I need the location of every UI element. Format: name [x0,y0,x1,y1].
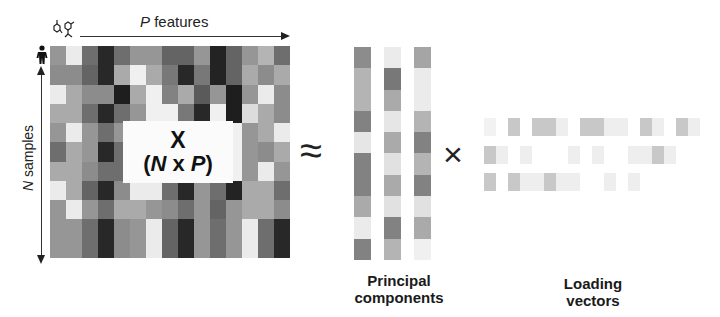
pc-cell [414,47,431,68]
matrix-cell [226,219,242,238]
loading-vector-row [484,118,700,136]
matrix-cell [258,162,274,181]
matrix-cell [98,65,114,84]
lv-label-line1: Loading [543,275,643,292]
matrix-cell [146,181,162,200]
matrix-cell [274,85,290,104]
loading-cell [532,173,544,191]
matrix-cell [274,65,290,84]
matrix-cell [242,46,258,65]
pc-cell [384,90,401,111]
matrix-cell [50,46,66,65]
pc-cell [414,68,431,89]
matrix-cell [82,181,98,200]
matrix-cell [114,200,130,219]
loading-cell [628,173,640,191]
samples-arrow [41,72,42,258]
matrix-cell [66,46,82,65]
matrix-cell [178,65,194,84]
loading-cell [520,118,532,136]
loading-cell [664,173,676,191]
pc-cell [354,90,371,111]
loading-cell [520,173,532,191]
pc-cell [414,196,431,217]
loading-cell [580,118,592,136]
pc-cell [354,239,371,260]
matrix-cell [98,162,114,181]
matrix-cell [146,239,162,258]
loading-cell [604,173,616,191]
matrix-cell [98,181,114,200]
features-arrow [80,36,288,37]
loading-cell [568,118,580,136]
matrix-cell [162,219,178,238]
pc-cell [354,196,371,217]
pc-cell [384,111,401,132]
loading-cell [616,173,628,191]
matrix-cell [258,142,274,161]
matrix-cell [274,219,290,238]
loading-cell [628,146,640,164]
matrix-cell [66,200,82,219]
loading-cell [496,118,508,136]
n-variable: N [20,181,36,191]
pc-cell [414,153,431,174]
matrix-cell [130,239,146,258]
matrix-title: X [170,128,185,152]
matrix-cell [50,142,66,161]
matrix-cell [178,200,194,219]
loading-cell [484,146,496,164]
loading-cell [652,146,664,164]
matrix-cell [274,142,290,161]
loading-vector-row [484,146,700,164]
matrix-cell [226,181,242,200]
matrix-cell [178,46,194,65]
pc-cell [354,153,371,174]
loading-cell [508,118,520,136]
matrix-cell [98,46,114,65]
pc-column [354,47,371,260]
pc-column [384,47,401,260]
loading-cell [580,146,592,164]
loading-cell [652,118,664,136]
matrix-cell [66,181,82,200]
matrix-cell [274,162,290,181]
samples-text: samples [20,125,36,181]
dim-p: P [191,151,206,176]
matrix-cell [50,104,66,123]
loading-cell [580,173,592,191]
matrix-cell [146,46,162,65]
matrix-cell [274,200,290,219]
person-icon [35,45,49,65]
matrix-cell [258,85,274,104]
p-features-label: P features [140,13,208,30]
matrix-cell [146,219,162,238]
matrix-cell [242,219,258,238]
pc-cell [384,196,401,217]
matrix-cell [50,239,66,258]
matrix-cell [178,181,194,200]
loading-cell [556,118,568,136]
matrix-cell [66,104,82,123]
loading-cell [676,173,688,191]
matrix-cell [242,142,258,161]
loading-cell [688,118,700,136]
matrix-cell [82,239,98,258]
matrix-cell [274,104,290,123]
loading-cell [556,146,568,164]
pc-cell [384,217,401,238]
lv-label: Loading vectors [543,275,643,309]
matrix-cell [66,162,82,181]
matrix-cell [130,219,146,238]
loading-cell [616,146,628,164]
pc-cell [384,153,401,174]
matrix-cell [226,65,242,84]
matrix-cell [50,123,66,142]
matrix-cell [82,123,98,142]
matrix-cell [50,219,66,238]
pc-cell [354,217,371,238]
matrix-cell [258,46,274,65]
matrix-cell [162,85,178,104]
matrix-cell [162,181,178,200]
matrix-cell [258,181,274,200]
